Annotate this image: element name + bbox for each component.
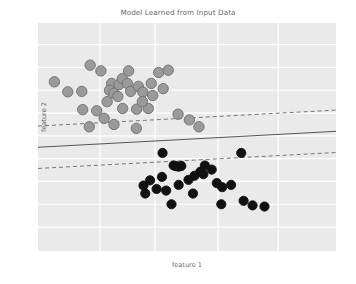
data-point-series-0 [153,67,163,77]
data-point-series-1 [217,200,226,209]
data-point-series-0 [102,96,112,106]
data-point-series-1 [199,170,208,179]
y-axis-label: feature 2 [40,87,48,147]
data-point-series-1 [227,180,236,189]
data-point-series-0 [117,103,127,113]
data-point-series-0 [49,77,59,87]
data-point-series-1 [158,148,167,157]
data-point-series-1 [260,202,269,211]
data-point-series-1 [162,186,171,195]
data-point-series-0 [99,113,109,123]
data-point-series-1 [157,172,166,181]
data-point-series-0 [158,83,168,93]
data-point-series-0 [138,87,148,97]
chart-figure: Model Learned from Input Data feature 1 … [0,0,356,284]
data-point-series-0 [77,86,87,96]
data-point-series-1 [237,148,246,157]
data-point-series-1 [177,161,186,170]
data-point-series-0 [163,65,173,75]
data-point-series-0 [109,119,119,129]
data-point-series-0 [123,66,133,76]
data-point-series-0 [173,109,183,119]
data-point-series-1 [248,201,257,210]
chart-title: Model Learned from Input Data [0,8,356,17]
data-point-series-0 [113,91,123,101]
data-point-series-0 [137,96,147,106]
data-point-series-1 [167,200,176,209]
data-point-series-0 [184,115,194,125]
data-point-series-1 [207,165,216,174]
model-line-decision-boundary [38,131,336,147]
data-point-series-1 [218,183,227,192]
data-point-series-0 [63,87,73,97]
data-point-series-0 [84,122,94,132]
data-point-series-1 [239,196,248,205]
data-point-series-1 [188,189,197,198]
gridlines-group [38,23,336,251]
x-axis-label: feature 1 [38,261,336,269]
data-point-series-0 [146,78,156,88]
data-point-series-1 [174,180,183,189]
data-point-series-0 [85,60,95,70]
data-point-series-0 [148,90,158,100]
plot-area [38,23,336,251]
data-point-series-1 [141,189,150,198]
data-point-series-0 [96,66,106,76]
scatter-plot-canvas [38,23,336,251]
data-point-series-0 [194,122,204,132]
data-point-series-0 [78,104,88,114]
model-line-lower-margin [38,153,336,169]
data-point-series-0 [131,123,141,133]
data-point-series-1 [152,184,161,193]
